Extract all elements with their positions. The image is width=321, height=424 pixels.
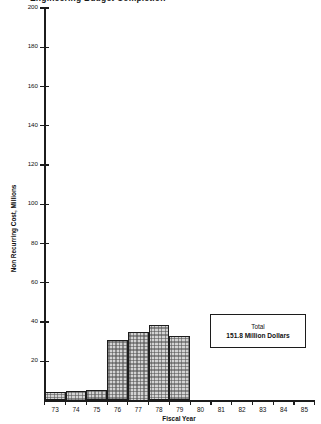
- y-axis-tick: [40, 125, 49, 126]
- x-axis-tick: [210, 400, 211, 405]
- x-axis-tick-label: 74: [66, 406, 86, 413]
- x-axis-tick-label: 79: [170, 406, 190, 413]
- x-axis-tick-label: 84: [274, 406, 294, 413]
- y-axis-tick-label: 160: [10, 83, 38, 91]
- bar: [45, 392, 66, 401]
- y-axis-tick-label: 180: [10, 43, 38, 51]
- x-axis-tick-label: 78: [149, 406, 169, 413]
- x-axis-tick: [44, 400, 45, 405]
- y-axis-tick-label: 140: [10, 122, 38, 130]
- x-axis-tick-label: 75: [87, 406, 107, 413]
- x-axis-tick-label: 85: [294, 406, 314, 413]
- x-axis-tick-label: 82: [232, 406, 252, 413]
- bar: [107, 340, 128, 401]
- x-axis-tick-label: 77: [128, 406, 148, 413]
- x-axis-tick: [148, 400, 149, 405]
- y-axis-tick: [40, 321, 49, 322]
- y-axis-tick-label: 20: [10, 357, 38, 365]
- total-callout-box: Total 151.8 Million Dollars: [210, 314, 306, 348]
- y-axis-tick: [40, 204, 49, 205]
- y-axis-tick-label-text: 20: [12, 357, 38, 363]
- x-axis-tick: [65, 400, 66, 405]
- bar: [128, 332, 149, 401]
- y-axis-tick: [40, 243, 49, 244]
- x-axis-tick: [314, 400, 315, 405]
- x-axis-tick: [86, 400, 87, 405]
- bar: [86, 390, 107, 401]
- x-axis-tick: [127, 400, 128, 405]
- x-axis-tick: [169, 400, 170, 405]
- x-axis-tick-label: 76: [107, 406, 127, 413]
- y-axis-tick: [40, 86, 49, 87]
- x-axis-tick: [273, 400, 274, 405]
- y-axis-tick: [40, 47, 49, 48]
- x-axis-tick-label: 81: [211, 406, 231, 413]
- y-axis-tick: [40, 7, 49, 8]
- x-axis-tick: [107, 400, 108, 405]
- y-axis-tick-label-text: 180: [12, 43, 38, 49]
- x-axis-title: Fiscal Year: [44, 415, 314, 422]
- x-axis-tick: [231, 400, 232, 405]
- y-axis-tick-label-text: 140: [12, 122, 38, 128]
- y-axis-tick-label-text: 160: [12, 83, 38, 89]
- x-axis-tick-label: 80: [191, 406, 211, 413]
- y-axis-tick: [40, 164, 49, 165]
- y-axis-tick-label-text: 40: [12, 318, 38, 324]
- y-axis-tick-label-text: 200: [12, 4, 38, 10]
- y-axis-title: Non Recurring Cost, Millions: [10, 164, 17, 294]
- bar: [149, 325, 170, 401]
- y-axis-tick: [40, 282, 49, 283]
- total-callout-label: Total: [251, 322, 265, 331]
- x-axis-tick: [252, 400, 253, 405]
- x-axis-tick: [293, 400, 294, 405]
- x-axis-tick-label: 73: [45, 406, 65, 413]
- total-callout-value: 151.8 Million Dollars: [226, 331, 289, 340]
- y-axis-tick-label: 200: [10, 4, 38, 12]
- bar: [66, 391, 87, 401]
- x-axis-tick-label: 83: [253, 406, 273, 413]
- y-axis-tick: [40, 361, 49, 362]
- chart-figure: Engineering Budget Completion 2040608010…: [0, 0, 321, 424]
- y-axis-tick-label: 40: [10, 318, 38, 326]
- bar: [169, 336, 190, 401]
- chart-title: Engineering Budget Completion: [30, 0, 166, 3]
- x-axis-tick: [190, 400, 191, 405]
